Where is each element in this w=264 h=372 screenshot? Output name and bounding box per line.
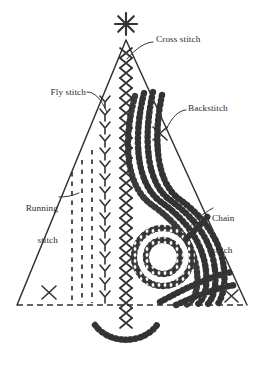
label-running-stitch-line2: stitch [0, 235, 58, 246]
label-chain-stitch-line1: Chain [212, 213, 264, 224]
ornament-right-icon [225, 290, 238, 302]
label-chain-stitch-line2: stitch [212, 245, 264, 256]
ornament-left-icon [42, 286, 56, 299]
cross-stitch-column [120, 48, 132, 328]
label-running-stitch-line1: Running [0, 203, 58, 214]
leader-backstitch [166, 110, 186, 130]
label-fly-stitch: Fly stitch [0, 87, 86, 98]
label-cross-stitch: Cross stitch [156, 34, 200, 45]
tree-stand-arc [95, 325, 157, 340]
diagram-canvas: Cross stitch Fly stitch Backstitch Runni… [0, 0, 264, 372]
label-running-stitch: Running stitch [0, 182, 58, 266]
fly-stitch-column [100, 96, 110, 303]
label-chain-stitch: Chain stitch [212, 192, 264, 276]
star-topper-icon [115, 13, 137, 35]
label-backstitch: Backstitch [188, 103, 228, 114]
running-stitch-lines [72, 150, 92, 303]
